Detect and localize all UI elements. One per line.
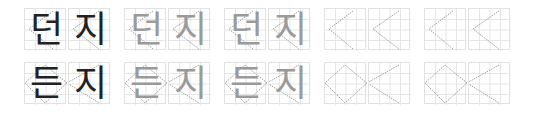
trace-character: 든 xyxy=(125,63,167,105)
trace-character: 지 xyxy=(169,9,211,51)
practice-cell xyxy=(368,62,410,104)
practice-cell: 지 xyxy=(168,62,210,104)
trace-character: 던 xyxy=(225,9,267,51)
guide-chevron-icon xyxy=(425,9,467,51)
worksheet-row-deonji: 던 지 던 지 xyxy=(0,8,534,52)
practice-cell: 든 xyxy=(24,62,66,104)
practice-group-trace: 던 지 xyxy=(124,8,210,50)
character: 지 xyxy=(69,63,111,105)
practice-cell xyxy=(324,8,366,50)
practice-cell: 지 xyxy=(268,8,310,50)
practice-cell xyxy=(468,8,510,50)
practice-cell xyxy=(424,62,466,104)
practice-group-blank xyxy=(324,8,410,50)
guide-diamond-icon xyxy=(425,63,467,105)
guide-chevron-icon xyxy=(469,9,511,51)
guide-triangle-icon xyxy=(369,63,411,105)
practice-group-blank xyxy=(424,8,510,50)
trace-character: 든 xyxy=(225,63,267,105)
practice-cell xyxy=(468,62,510,104)
practice-cell xyxy=(368,8,410,50)
practice-cell: 지 xyxy=(68,8,110,50)
guide-diamond-icon xyxy=(325,63,367,105)
practice-cell xyxy=(324,62,366,104)
practice-group-blank xyxy=(324,62,410,104)
worksheet-row-deunji: 든 지 든 지 xyxy=(0,62,534,106)
character: 든 xyxy=(25,63,67,105)
practice-cell: 든 xyxy=(124,62,166,104)
practice-cell: 던 xyxy=(224,8,266,50)
practice-group-trace: 든 지 xyxy=(224,62,310,104)
practice-cell: 지 xyxy=(168,8,210,50)
practice-group-blank xyxy=(424,62,510,104)
practice-cell: 지 xyxy=(268,62,310,104)
practice-cell: 던 xyxy=(124,8,166,50)
guide-chevron-icon xyxy=(369,9,411,51)
practice-group-trace: 던 지 xyxy=(224,8,310,50)
practice-group-trace: 든 지 xyxy=(124,62,210,104)
practice-group-solid: 든 지 xyxy=(24,62,110,104)
practice-cell: 던 xyxy=(24,8,66,50)
trace-character: 지 xyxy=(169,63,211,105)
trace-character: 던 xyxy=(125,9,167,51)
practice-cell: 지 xyxy=(68,62,110,104)
character: 던 xyxy=(25,9,67,51)
guide-triangle-icon xyxy=(469,63,511,105)
trace-character: 지 xyxy=(269,9,311,51)
guide-chevron-icon xyxy=(325,9,367,51)
practice-cell xyxy=(424,8,466,50)
practice-cell: 든 xyxy=(224,62,266,104)
character: 지 xyxy=(69,9,111,51)
practice-group-solid: 던 지 xyxy=(24,8,110,50)
trace-character: 지 xyxy=(269,63,311,105)
